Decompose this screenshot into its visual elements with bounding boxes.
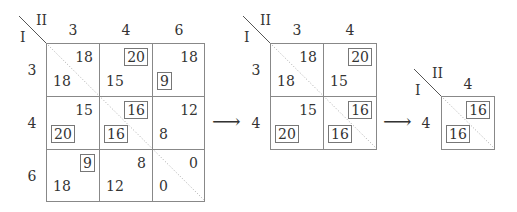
payoff-cell-equilibrium: 16 16 xyxy=(441,96,495,150)
payoff-row-player-best: 16 xyxy=(446,125,470,143)
payoff-cell: 18 18 xyxy=(270,43,324,97)
payoff-row-player: 8 xyxy=(159,127,168,141)
col-header: 4 xyxy=(345,23,355,37)
payoff-row-player: 0 xyxy=(159,179,168,193)
payoff-cell: 15 20 xyxy=(46,96,100,150)
payoff-col-player: 12 xyxy=(180,103,198,117)
payoff-col-player-best: 16 xyxy=(466,101,490,119)
row-header: 4 xyxy=(251,116,261,130)
player-col-label: II xyxy=(260,13,271,27)
row-header: 3 xyxy=(251,63,261,77)
payoff-col-player-best: 20 xyxy=(348,48,372,66)
col-header: 4 xyxy=(463,77,473,91)
payoff-cell-equilibrium: 16 16 xyxy=(323,96,377,150)
payoff-row-player: 18 xyxy=(53,179,71,193)
col-header: 4 xyxy=(121,23,131,37)
row-header: 6 xyxy=(27,169,37,183)
player-col-label: II xyxy=(432,66,443,80)
payoff-cell: 18 18 xyxy=(46,43,100,97)
payoff-cell: 8 12 xyxy=(99,149,153,202)
payoff-cell-equilibrium: 16 16 xyxy=(99,96,153,150)
payoff-cell: 18 9 xyxy=(152,43,205,97)
payoff-row-player-best: 16 xyxy=(104,125,128,143)
player-row-label: I xyxy=(244,30,250,44)
col-header: 3 xyxy=(292,23,302,37)
row-header: 3 xyxy=(27,63,37,77)
payoff-row-player: 12 xyxy=(106,179,124,193)
payoff-row-player-best: 16 xyxy=(328,125,352,143)
payoff-col-player: 18 xyxy=(299,50,317,64)
payoff-cell: 0 0 xyxy=(152,149,205,202)
payoff-row-player: 18 xyxy=(277,74,295,88)
payoff-cell: 9 18 xyxy=(46,149,100,202)
player-row-label: I xyxy=(415,83,421,97)
row-header: 4 xyxy=(27,116,37,130)
payoff-row-player: 18 xyxy=(53,74,71,88)
payoff-row-player: 15 xyxy=(106,74,124,88)
payoff-col-player-best: 16 xyxy=(124,101,148,119)
payoff-col-player-best: 16 xyxy=(348,101,372,119)
payoff-cell: 15 20 xyxy=(270,96,324,150)
payoff-cell: 12 8 xyxy=(152,96,205,150)
payoff-col-player: 8 xyxy=(137,156,146,170)
payoff-cell: 20 15 xyxy=(323,43,377,97)
row-header: 4 xyxy=(421,116,431,130)
payoff-cell: 20 15 xyxy=(99,43,153,97)
payoff-col-player: 15 xyxy=(299,103,317,117)
payoff-col-player-best: 9 xyxy=(80,154,95,172)
col-header: 3 xyxy=(68,23,78,37)
payoff-col-player: 0 xyxy=(189,156,198,170)
payoff-col-player-best: 20 xyxy=(124,48,148,66)
payoff-col-player: 18 xyxy=(75,50,93,64)
payoff-row-player-best: 20 xyxy=(51,125,75,143)
right-arrow-icon: ⟶ xyxy=(212,111,241,131)
payoff-row-player: 15 xyxy=(330,74,348,88)
payoff-col-player: 15 xyxy=(75,103,93,117)
player-col-label: II xyxy=(36,13,47,27)
payoff-row-player-best: 9 xyxy=(157,72,172,90)
player-row-label: I xyxy=(20,30,26,44)
col-header: 6 xyxy=(174,23,184,37)
payoff-row-player-best: 20 xyxy=(275,125,299,143)
right-arrow-icon: ⟶ xyxy=(383,111,412,131)
payoff-col-player: 18 xyxy=(180,50,198,64)
